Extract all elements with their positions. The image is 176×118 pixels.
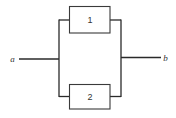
component-2: 2 xyxy=(70,85,111,110)
terminal-a-label: a xyxy=(10,54,15,64)
component-1: 1 xyxy=(70,7,111,34)
parallel-diagram: 1 2 a b xyxy=(0,0,176,118)
component-2-label: 2 xyxy=(87,92,92,102)
component-1-label: 1 xyxy=(87,15,92,25)
terminal-b-label: b xyxy=(163,53,168,63)
